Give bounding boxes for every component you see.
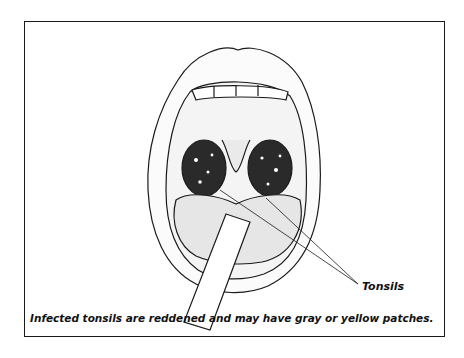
figure-caption: Infected tonsils are reddened and may ha…: [30, 312, 433, 324]
tonsils-label: Tonsils: [362, 280, 404, 293]
left-tonsil: [182, 140, 226, 196]
right-tonsil: [248, 140, 292, 196]
mouth-illustration: [0, 0, 464, 358]
